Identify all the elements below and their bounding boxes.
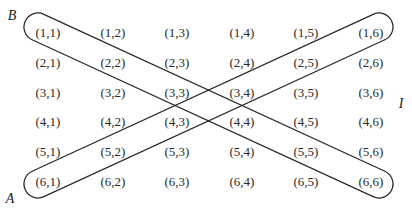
grid-cell: (2,3) (165, 56, 190, 69)
grid-cell: (2,2) (101, 56, 126, 69)
grid-cell: (5,2) (101, 145, 126, 158)
grid-cell: (3,4) (230, 86, 255, 99)
grid-cell: (6,2) (101, 175, 126, 188)
event-bands (0, 0, 412, 212)
sample-space-diagram: B A I (1,1) (1,2) (1,3) (1,4) (1,5) (1,6… (0, 0, 412, 212)
grid-cell: (6,1) (36, 175, 61, 188)
grid-cell: (1,6) (359, 26, 384, 39)
grid-cell: (6,3) (165, 175, 190, 188)
grid-cell: (4,6) (359, 115, 384, 128)
grid-cell: (4,5) (294, 115, 319, 128)
grid-cell: (6,5) (294, 175, 319, 188)
label-b: B (8, 9, 17, 23)
grid-cell: (4,2) (101, 115, 126, 128)
grid-cell: (4,3) (165, 115, 190, 128)
grid-cell: (1,3) (165, 26, 190, 39)
grid-cell: (5,6) (359, 145, 384, 158)
grid-cell: (3,3) (165, 86, 190, 99)
grid-cell: (1,2) (101, 26, 126, 39)
grid-cell: (6,6) (359, 175, 384, 188)
grid-cell: (5,4) (230, 145, 255, 158)
grid-cell: (2,1) (36, 56, 61, 69)
grid-cell: (4,1) (36, 115, 61, 128)
grid-cell: (1,4) (230, 26, 255, 39)
label-a: A (6, 192, 15, 206)
grid-cell: (2,5) (294, 56, 319, 69)
grid-cell: (3,2) (101, 86, 126, 99)
grid-cell: (2,6) (359, 56, 384, 69)
grid-cell: (6,4) (230, 175, 255, 188)
grid-cell: (5,1) (36, 145, 61, 158)
grid-cell: (2,4) (230, 56, 255, 69)
grid-cell: (5,5) (294, 145, 319, 158)
grid-cell: (1,5) (294, 26, 319, 39)
grid-cell: (3,1) (36, 86, 61, 99)
grid-cell: (3,6) (359, 86, 384, 99)
event-band-a (19, 8, 397, 202)
grid-cell: (4,4) (230, 115, 255, 128)
grid-cell: (5,3) (165, 145, 190, 158)
grid-cell: (3,5) (294, 86, 319, 99)
event-band-b (19, 8, 397, 202)
grid-cell: (1,1) (36, 26, 61, 39)
label-i: I (399, 97, 404, 111)
